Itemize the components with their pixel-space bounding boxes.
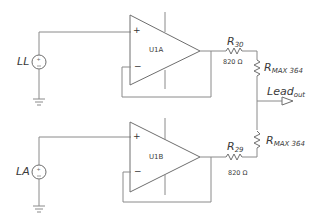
resistor-rmax-top-icon bbox=[254, 60, 260, 76]
ground-icon bbox=[33, 99, 45, 105]
resistor-rmax-top-name: RMAX 364 bbox=[264, 62, 303, 75]
ll-source-group: + bbox=[32, 32, 131, 105]
source-label-ll: LL bbox=[17, 56, 29, 67]
resistor-rmax-bottom-name: RMAX 364 bbox=[266, 135, 305, 148]
opamp-u1b-label: U1B bbox=[149, 154, 163, 161]
opamp-u1b-minus: − bbox=[134, 167, 142, 176]
opamp-u1a-minus: − bbox=[134, 62, 142, 71]
resistor-r30-name: R30 bbox=[227, 36, 244, 49]
lead-out-label: Leadout bbox=[267, 86, 305, 99]
resistor-r29-value: 820 Ω bbox=[228, 170, 247, 177]
circuit-schematic: + + bbox=[0, 0, 321, 222]
feedback-wire-u1a bbox=[122, 51, 211, 97]
opamp-u1b-plus: + bbox=[133, 132, 141, 141]
source-label-la: LA bbox=[16, 166, 30, 177]
resistor-r30-value: 820 Ω bbox=[223, 59, 242, 66]
feedback-wire-u1b bbox=[123, 157, 211, 202]
plus-sign-icon: + bbox=[37, 56, 41, 62]
resistor-rmax-bottom-icon bbox=[254, 131, 260, 148]
opamp-u1a-label: U1A bbox=[149, 47, 163, 54]
opamp-u1a-plus: + bbox=[133, 26, 141, 35]
plus-sign-icon: + bbox=[37, 166, 41, 172]
ground-icon bbox=[33, 206, 45, 212]
resistor-r29-name: R29 bbox=[227, 141, 244, 154]
resistor-r29-icon bbox=[226, 154, 242, 160]
la-source-group: + bbox=[32, 137, 131, 212]
